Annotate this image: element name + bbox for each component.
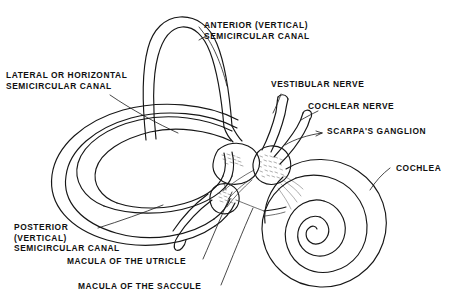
- vestibulocochlear-nerve-group: [223, 95, 311, 209]
- macula-saccule-stipple: [218, 192, 233, 203]
- label-posterior-line1: POSTERIOR: [14, 222, 68, 232]
- label-lateral-line2: SEMICIRCULAR CANAL: [6, 81, 112, 91]
- label-cochlea: COCHLEA: [396, 163, 441, 174]
- label-anterior-line1: ANTERIOR (VERTICAL): [204, 20, 308, 30]
- label-anterior-semicircular-canal: ANTERIOR (VERTICAL)SEMICIRCULAR CANAL: [204, 20, 310, 41]
- label-lateral-line1: LATERAL OR HORIZONTAL: [6, 70, 127, 80]
- cochlea-spiral: [262, 159, 386, 287]
- inner-ear-diagram: ANTERIOR (VERTICAL)SEMICIRCULAR CANAL LA…: [0, 0, 452, 301]
- leader-vestibular-nerve: [273, 94, 281, 113]
- label-macula-of-the-utricle: MACULA OF THE UTRICLE: [67, 256, 186, 267]
- vestibule-utricle-saccule: [173, 143, 264, 250]
- label-posterior-line2: (VERTICAL): [14, 233, 67, 243]
- label-vestibular-nerve: VESTIBULAR NERVE: [271, 79, 364, 90]
- label-cochlear-nerve: COCHLEAR NERVE: [308, 101, 394, 112]
- scarpas-ganglion-stipple: [259, 155, 284, 178]
- label-posterior-semicircular-canal: POSTERIOR(VERTICAL)SEMICIRCULAR CANAL: [14, 222, 120, 254]
- label-posterior-line3: SEMICIRCULAR CANAL: [14, 243, 120, 253]
- leader-macula-utricle: [203, 192, 232, 259]
- leader-macula-saccule: [221, 208, 253, 285]
- label-lateral-semicircular-canal: LATERAL OR HORIZONTALSEMICIRCULAR CANAL: [6, 70, 127, 91]
- label-anterior-line2: SEMICIRCULAR CANAL: [204, 31, 310, 41]
- leader-cochlea: [370, 168, 390, 190]
- leader-lines: [98, 27, 390, 285]
- label-scarpas-ganglion: SCARPA'S GANGLION: [327, 126, 426, 137]
- label-macula-of-the-saccule: MACULA OF THE SACCULE: [78, 281, 201, 292]
